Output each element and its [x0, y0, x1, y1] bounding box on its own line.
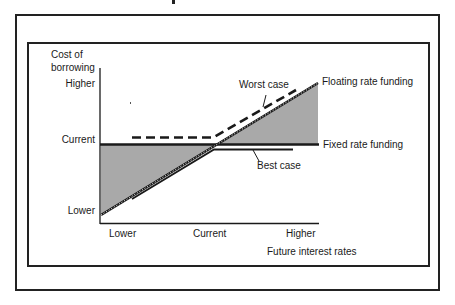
y-axis-title-line1: Cost of — [51, 49, 83, 61]
y-axis-title-line2: borrowing — [51, 62, 95, 74]
speck — [130, 102, 131, 104]
floating-rate-label: Floating rate funding — [322, 76, 413, 88]
worst-case-label: Worst case — [239, 79, 289, 91]
x-tick-lower: Lower — [109, 228, 136, 240]
x-tick-current: Current — [193, 228, 226, 240]
x-tick-higher: Higher — [286, 228, 315, 240]
y-tick-current: Current — [40, 134, 95, 146]
best-case-label: Best case — [257, 160, 301, 172]
worst-case-leader — [263, 95, 266, 107]
y-tick-higher: Higher — [40, 78, 95, 90]
x-axis-title: Future interest rates — [267, 246, 356, 258]
y-tick-lower: Lower — [40, 205, 95, 217]
fixed-rate-label: Fixed rate funding — [323, 139, 403, 151]
interest-rate-diagram — [0, 0, 455, 305]
